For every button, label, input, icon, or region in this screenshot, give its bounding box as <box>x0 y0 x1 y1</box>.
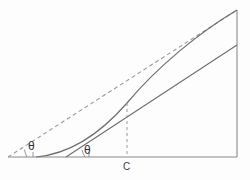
figure-canvas <box>0 0 250 180</box>
tangent-line <box>66 45 237 157</box>
convex-curve <box>36 10 237 157</box>
geometry-figure: θ θ C <box>0 0 250 180</box>
secant-dashed-line <box>8 10 237 157</box>
theta-left-label: θ <box>28 140 35 152</box>
theta-left-arc-icon <box>25 150 28 158</box>
theta-right-label: θ <box>84 144 91 156</box>
point-c-label: C <box>123 162 130 172</box>
